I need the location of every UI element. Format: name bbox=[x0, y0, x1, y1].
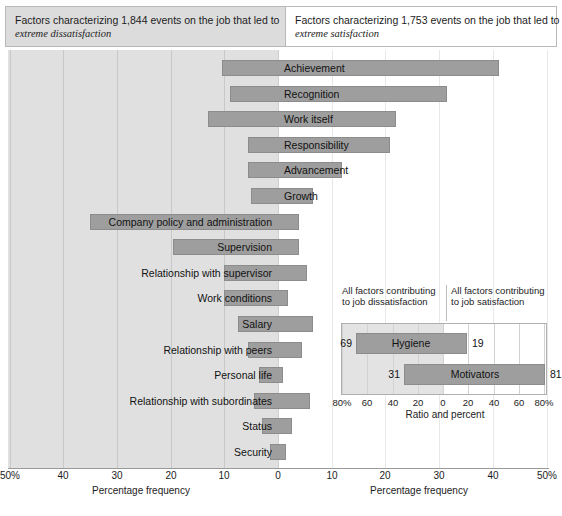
inset-tick: 60 bbox=[362, 397, 373, 408]
header-satisfaction-line2: extreme satisfaction bbox=[295, 27, 547, 40]
inset-plot-frame: Hygiene6919Motivators3181 bbox=[341, 323, 547, 395]
bar-row: Status bbox=[8, 418, 549, 434]
bar-label: Security bbox=[234, 445, 272, 459]
x-tick: 40 bbox=[487, 470, 498, 481]
x-tick: 30 bbox=[111, 470, 122, 481]
bar-row: Company policy and administration bbox=[8, 214, 549, 230]
bar-label: Relationship with peers bbox=[163, 343, 272, 357]
bar-row: Recognition bbox=[8, 86, 549, 102]
bar-achievement bbox=[222, 60, 499, 76]
inset-bar-label: Hygiene bbox=[392, 333, 431, 354]
header-satisfaction: Factors characterizing 1,753 events on t… bbox=[286, 6, 557, 47]
bar-label: Work itself bbox=[284, 112, 333, 126]
x-tick: 20 bbox=[379, 470, 390, 481]
x-tick: 40 bbox=[57, 470, 68, 481]
inset-tick: 40 bbox=[388, 397, 399, 408]
x-tick: 0 bbox=[275, 470, 281, 481]
bar-row: Growth bbox=[8, 188, 549, 204]
header-dissatisfaction-line2: extreme dissatisfaction bbox=[15, 27, 276, 40]
bar-row: Supervision bbox=[8, 239, 549, 255]
bar-label: Personal life bbox=[214, 368, 272, 382]
chart-root: Factors characterizing 1,844 events on t… bbox=[0, 0, 562, 516]
axis-baseline bbox=[8, 468, 549, 469]
x-tick: 30 bbox=[433, 470, 444, 481]
bar-label: Achievement bbox=[284, 61, 345, 75]
inset-value-left: 69 bbox=[334, 333, 352, 354]
inset-chart: All factors contributing to job dissatis… bbox=[333, 285, 557, 420]
bar-label: Supervision bbox=[217, 240, 272, 254]
bar-label: Advancement bbox=[284, 163, 348, 177]
bar-row: Advancement bbox=[8, 162, 549, 178]
x-tick: 10 bbox=[326, 470, 337, 481]
bar-security bbox=[270, 444, 286, 460]
bar-label: Relationship with subordinates bbox=[130, 394, 272, 408]
bar-label: Salary bbox=[242, 317, 272, 331]
header-dissatisfaction-line1: Factors characterizing 1,844 events on t… bbox=[15, 14, 276, 27]
bar-row: Responsibility bbox=[8, 137, 549, 153]
x-tick: 20 bbox=[165, 470, 176, 481]
inset-caption-left: All factors contributing to job dissatis… bbox=[342, 285, 442, 307]
header-satisfaction-line1: Factors characterizing 1,753 events on t… bbox=[295, 14, 547, 27]
x-tick: 10 bbox=[218, 470, 229, 481]
header: Factors characterizing 1,844 events on t… bbox=[5, 6, 557, 47]
header-dissatisfaction: Factors characterizing 1,844 events on t… bbox=[5, 6, 286, 47]
x-axis: 50%4030201001020304050% Percentage frequ… bbox=[0, 470, 562, 514]
x-tick: 50% bbox=[0, 470, 20, 481]
bar-label: Recognition bbox=[284, 87, 339, 101]
bar-label: Responsibility bbox=[284, 138, 349, 152]
inset-caption-divider bbox=[446, 285, 447, 321]
bar-row: Work itself bbox=[8, 111, 549, 127]
x-tick: 50% bbox=[537, 470, 557, 481]
inset-bar-label: Motivators bbox=[451, 364, 499, 385]
inset-tick: 80% bbox=[332, 397, 351, 408]
bar-label: Growth bbox=[284, 189, 318, 203]
bar-row: Security bbox=[8, 444, 549, 460]
bar-label: Status bbox=[242, 419, 272, 433]
inset-tick: 20 bbox=[413, 397, 424, 408]
inset-tick: 40 bbox=[489, 397, 500, 408]
bar-label: Company policy and administration bbox=[109, 215, 272, 229]
inset-axis-title: Ratio and percent bbox=[333, 409, 557, 420]
inset-value-left: 31 bbox=[382, 364, 400, 385]
x-axis-title-left: Percentage frequency bbox=[92, 485, 190, 496]
inset-tick: 60 bbox=[514, 397, 525, 408]
inset-value-right: 81 bbox=[550, 364, 562, 385]
inset-tick: 20 bbox=[463, 397, 474, 408]
inset-caption-right: All factors contributing to job satisfac… bbox=[451, 285, 551, 307]
x-axis-title-right: Percentage frequency bbox=[370, 485, 468, 496]
bar-row: Achievement bbox=[8, 60, 549, 76]
bar-label: Work conditions bbox=[197, 291, 272, 305]
inset-tick: 0 bbox=[440, 397, 445, 408]
bar-row: Relationship with supervisor bbox=[8, 265, 549, 281]
inset-tick: 80% bbox=[534, 397, 553, 408]
bar-label: Relationship with supervisor bbox=[141, 266, 272, 280]
inset-value-right: 19 bbox=[472, 333, 484, 354]
